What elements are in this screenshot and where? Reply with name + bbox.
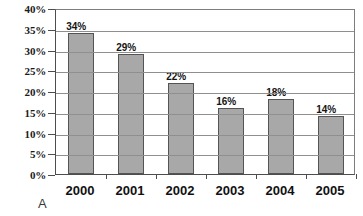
bars-layer: 34%29%22%16%18%14% (56, 10, 354, 174)
bar[interactable]: 16% (218, 108, 244, 174)
gridline (56, 114, 354, 115)
x-axis-tick-mark (156, 174, 157, 179)
y-axis-tick-label: 35% (0, 24, 46, 35)
y-axis-tick-label: 40% (0, 4, 46, 15)
bar[interactable]: 18% (268, 99, 294, 174)
y-axis-tick-mark (48, 71, 55, 72)
bar[interactable]: 22% (168, 83, 194, 174)
plot-area: 34%29%22%16%18%14% (55, 9, 355, 175)
bar[interactable]: 14% (318, 116, 344, 174)
bar-group: 18% (256, 10, 306, 174)
y-axis-tick-mark (48, 30, 55, 31)
x-axis-tick-mark (356, 174, 357, 179)
x-axis-tick-label: 2000 (66, 183, 95, 198)
x-axis-tick-mark (106, 174, 107, 179)
x-axis-tick-label: 2001 (116, 183, 145, 198)
bar-group: 16% (206, 10, 256, 174)
y-axis-tick-label: 25% (0, 66, 46, 77)
bar-group: 14% (306, 10, 356, 174)
y-axis-tick-mark (48, 134, 55, 135)
x-axis-tick-mark (306, 174, 307, 179)
gridline (56, 31, 354, 32)
bar-value-label: 16% (216, 96, 236, 107)
gridline (56, 93, 354, 94)
bar-group: 34% (56, 10, 106, 174)
x-axis-tick-label: 2005 (316, 183, 345, 198)
x-axis-tick-labels: 200020012002200320042005 (55, 183, 355, 201)
y-axis-tick-label: 15% (0, 107, 46, 118)
y-axis-tick-mark (48, 92, 55, 93)
y-axis-tick-mark (48, 113, 55, 114)
y-axis-tick-mark (48, 154, 55, 155)
panel-letter-label: A (38, 196, 47, 211)
y-axis-tick-label: 0% (0, 170, 46, 181)
y-axis-tick-mark (48, 9, 55, 10)
y-axis-tick-label: 20% (0, 87, 46, 98)
y-axis-tick-label: 5% (0, 149, 46, 160)
y-axis-tick-label: 10% (0, 128, 46, 139)
bar-group: 22% (156, 10, 206, 174)
bar-group: 29% (106, 10, 156, 174)
gridline (56, 155, 354, 156)
y-axis-tick-label: 30% (0, 45, 46, 56)
bar[interactable]: 34% (68, 33, 94, 174)
x-axis-tick-label: 2002 (166, 183, 195, 198)
gridline (56, 135, 354, 136)
y-axis-tick-labels: 0%5%10%15%20%25%30%35%40% (0, 9, 46, 175)
x-axis-tick-mark (256, 174, 257, 179)
x-axis-tick-label: 2004 (266, 183, 295, 198)
bar-chart-figure: 0%5%10%15%20%25%30%35%40% 34%29%22%16%18… (0, 0, 363, 216)
y-axis-tick-mark (48, 175, 55, 176)
y-axis-tick-mark (48, 51, 55, 52)
x-axis-tick-label: 2003 (216, 183, 245, 198)
gridline (56, 52, 354, 53)
gridline (56, 72, 354, 73)
x-axis-tick-mark (206, 174, 207, 179)
